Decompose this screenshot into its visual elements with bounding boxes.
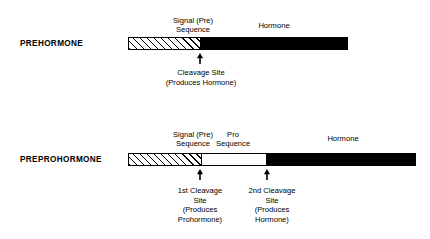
up-arrow-icon: [197, 169, 204, 180]
row-label-preprohormone: PREPROHORMONE: [20, 155, 102, 164]
segment-hormone-prehormone: [200, 38, 347, 49]
bar-preprohormone: [128, 153, 416, 166]
bar-prehormone: [128, 37, 348, 50]
caption-second-cleavage-site: 2nd Cleavage Site (Produces Hormone): [249, 186, 296, 224]
segment-pro-sequence-preprohormone: [201, 154, 268, 165]
caption-cleavage-site-prehormone: Cleavage Site (Produces Hormone): [166, 68, 236, 87]
segment-signal-sequence-prehormone: [129, 38, 200, 49]
row-label-prehormone: PREHORMONE: [20, 39, 83, 48]
segment-hormone-preprohormone: [267, 154, 415, 165]
segment-signal-sequence-preprohormone: [129, 154, 201, 165]
caption-signal-sequence-preprohormone: Signal (Pre) Sequence: [173, 130, 213, 149]
diagram-canvas: PREHORMONE Signal (Pre) Sequence Hormone…: [0, 0, 430, 239]
caption-hormone-prehormone: Hormone: [258, 21, 289, 30]
caption-first-cleavage-site: 1st Cleavage Site (Produces Prohormone): [178, 186, 222, 224]
up-arrow-icon: [197, 53, 204, 64]
caption-signal-sequence-prehormone: Signal (Pre) Sequence: [173, 16, 213, 35]
caption-pro-sequence-preprohormone: Pro Sequence: [216, 130, 250, 149]
caption-hormone-preprohormone: Hormone: [327, 134, 358, 143]
up-arrow-icon: [264, 169, 271, 180]
